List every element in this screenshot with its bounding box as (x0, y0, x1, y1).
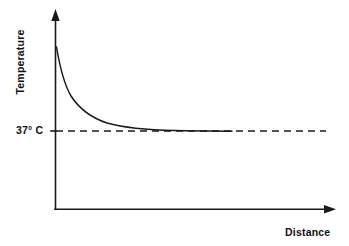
chart-canvas (0, 0, 349, 246)
y-axis-label: Temperature (14, 29, 26, 94)
arrow-up-icon (51, 9, 59, 21)
x-axis-label: Distance (285, 226, 330, 238)
arrow-right-icon (324, 205, 336, 213)
temperature-decay-curve (57, 47, 233, 131)
temperature-distance-chart: Temperature 37° C Distance (0, 0, 349, 246)
y-axis-tick-label-37: 37° C (16, 124, 43, 136)
